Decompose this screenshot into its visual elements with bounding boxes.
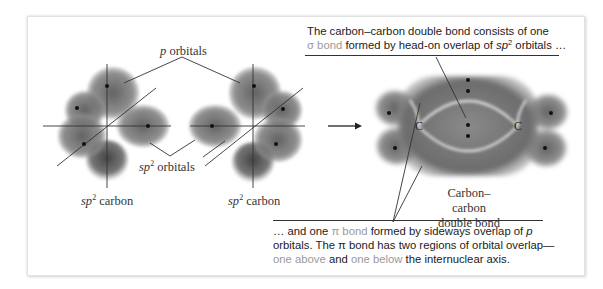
sigma-bond-caption: The carbon–carbon double bond consists o… bbox=[307, 24, 566, 52]
reaction-arrow-icon bbox=[328, 123, 362, 130]
sp2-carbon-left-label: sp2 carbon bbox=[81, 194, 133, 209]
p-orbitals-label: p orbitals bbox=[160, 44, 207, 59]
carbon-atom-left: C bbox=[415, 119, 423, 134]
double-bond-orbital bbox=[375, 76, 568, 176]
sp2-carbon-right-label: sp2 carbon bbox=[228, 194, 280, 209]
sp2-orbitals-label: sp2 orbitals bbox=[139, 160, 195, 175]
carbon-atom-right: C bbox=[514, 119, 522, 134]
sigma-caption-rule bbox=[305, 55, 559, 56]
pi-bond-caption: … and one π bond formed by sideways over… bbox=[273, 224, 554, 266]
pi-caption-rule bbox=[273, 220, 543, 221]
